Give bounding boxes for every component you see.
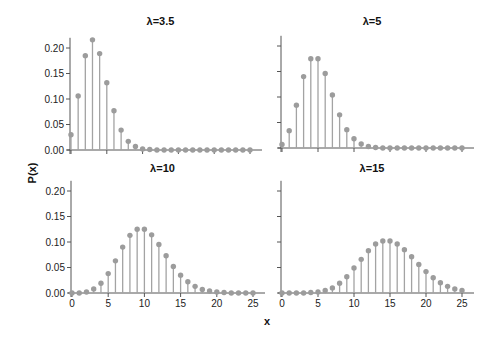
stem-marker bbox=[438, 280, 443, 285]
stem-marker bbox=[359, 257, 364, 262]
x-axis-label: x bbox=[264, 315, 271, 327]
stem-marker bbox=[178, 272, 183, 277]
x-tick-label: 25 bbox=[456, 298, 468, 309]
stem-marker bbox=[219, 147, 224, 152]
stem-marker bbox=[416, 145, 421, 150]
panel-4: λ=150510152025 bbox=[277, 162, 474, 309]
stem-marker bbox=[373, 241, 378, 246]
stem-marker bbox=[294, 102, 299, 107]
stem-marker bbox=[77, 290, 82, 295]
stem-marker bbox=[214, 289, 219, 294]
stem-marker bbox=[97, 51, 102, 56]
x-tick-label: 25 bbox=[247, 298, 259, 309]
stem-marker bbox=[344, 127, 349, 132]
stem-marker bbox=[221, 290, 226, 295]
stem-marker bbox=[380, 145, 385, 150]
stem-marker bbox=[204, 147, 209, 152]
y-tick-label: 0.20 bbox=[45, 43, 65, 54]
x-tick-label: 0 bbox=[279, 298, 285, 309]
stem-marker bbox=[351, 136, 356, 141]
stem-marker bbox=[294, 290, 299, 295]
stem-marker bbox=[423, 269, 428, 274]
x-tick-label: 15 bbox=[175, 298, 187, 309]
stem-marker bbox=[351, 265, 356, 270]
stem-marker bbox=[308, 56, 313, 61]
stem-marker bbox=[395, 145, 400, 150]
stem-marker bbox=[113, 258, 118, 263]
stem-marker bbox=[147, 147, 152, 152]
panel-title: λ=3.5 bbox=[147, 15, 175, 27]
stem-marker bbox=[250, 290, 255, 295]
stem-marker bbox=[90, 37, 95, 42]
stem-marker bbox=[200, 287, 205, 292]
stem-marker bbox=[279, 290, 284, 295]
stem-marker bbox=[337, 281, 342, 286]
stem-marker bbox=[69, 290, 74, 295]
panel-title: λ=5 bbox=[363, 15, 382, 27]
x-tick-label: 15 bbox=[384, 298, 396, 309]
stem-marker bbox=[373, 145, 378, 150]
y-tick-label: 0.05 bbox=[45, 119, 65, 130]
panel-2: λ=5 bbox=[277, 15, 474, 152]
stem-marker bbox=[84, 289, 89, 294]
stem-marker bbox=[344, 274, 349, 279]
stem-marker bbox=[308, 290, 313, 295]
y-tick-label: 0.20 bbox=[46, 186, 66, 197]
y-tick-label: 0.00 bbox=[46, 288, 66, 299]
stem-marker bbox=[236, 290, 241, 295]
stem-marker bbox=[75, 93, 80, 98]
stem-marker bbox=[240, 147, 245, 152]
stem-marker bbox=[233, 147, 238, 152]
stem-marker bbox=[161, 147, 166, 152]
stem-marker bbox=[243, 290, 248, 295]
stem-marker bbox=[247, 147, 252, 152]
stem-marker bbox=[323, 288, 328, 293]
stem-marker bbox=[323, 71, 328, 76]
panel-3: λ=100.000.050.100.150.200510152025 bbox=[46, 162, 265, 309]
stem-marker bbox=[118, 127, 123, 132]
stem-marker bbox=[387, 145, 392, 150]
stem-marker bbox=[212, 147, 217, 152]
stem-marker bbox=[287, 290, 292, 295]
stem-marker bbox=[315, 56, 320, 61]
y-tick-label: 0.10 bbox=[46, 237, 66, 248]
stem-marker bbox=[402, 145, 407, 150]
stem-marker bbox=[134, 227, 139, 232]
stem-marker bbox=[380, 238, 385, 243]
stem-marker bbox=[416, 262, 421, 267]
stem-marker bbox=[91, 286, 96, 291]
stem-marker bbox=[104, 80, 109, 85]
stem-marker bbox=[183, 147, 188, 152]
stem-marker bbox=[133, 144, 138, 149]
stem-marker bbox=[127, 233, 132, 238]
stem-marker bbox=[452, 145, 457, 150]
y-tick-label: 0.15 bbox=[45, 68, 65, 79]
stem-marker bbox=[163, 253, 168, 258]
stem-marker bbox=[185, 279, 190, 284]
stem-marker bbox=[149, 232, 154, 237]
stem-marker bbox=[315, 289, 320, 294]
stem-marker bbox=[169, 147, 174, 152]
stem-marker bbox=[301, 74, 306, 79]
stem-marker bbox=[445, 145, 450, 150]
y-axis-label: P(x) bbox=[26, 162, 38, 183]
panel-1: λ=3.50.000.050.100.150.20 bbox=[45, 15, 262, 156]
stem-marker bbox=[111, 108, 116, 113]
x-tick-label: 5 bbox=[315, 298, 321, 309]
stem-marker bbox=[279, 142, 284, 147]
stem-marker bbox=[359, 141, 364, 146]
x-tick-label: 0 bbox=[69, 298, 75, 309]
x-tick-label: 5 bbox=[105, 298, 111, 309]
stem-marker bbox=[366, 144, 371, 149]
stem-marker bbox=[402, 247, 407, 252]
stem-marker bbox=[287, 128, 292, 133]
stem-marker bbox=[68, 132, 73, 137]
panels: λ=3.50.000.050.100.150.20λ=5λ=100.000.05… bbox=[45, 15, 474, 309]
stem-marker bbox=[301, 290, 306, 295]
stem-marker bbox=[226, 147, 231, 152]
stem-marker bbox=[459, 288, 464, 293]
stem-marker bbox=[445, 284, 450, 289]
stem-marker bbox=[176, 147, 181, 152]
stem-marker bbox=[431, 145, 436, 150]
stem-marker bbox=[330, 285, 335, 290]
